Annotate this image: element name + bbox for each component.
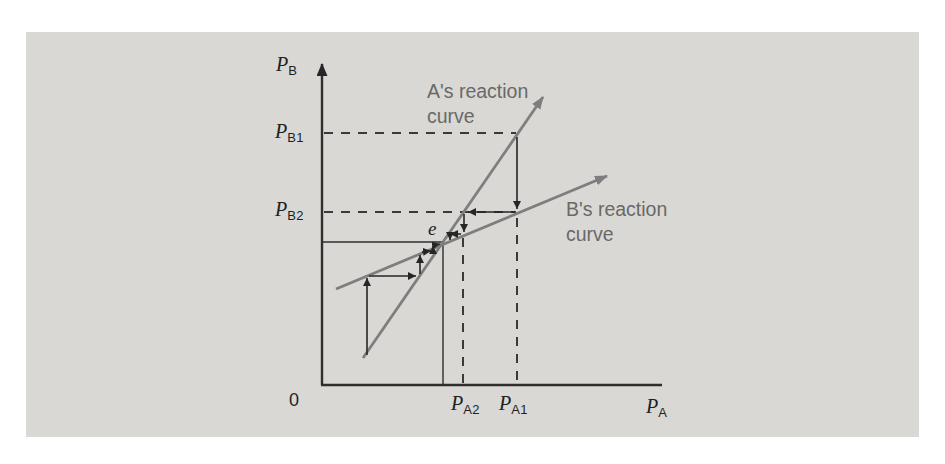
curve-b-label-line2: curve bbox=[566, 222, 667, 247]
curve-a-label-line2: curve bbox=[427, 104, 528, 129]
pb1-tick-label: PB1 bbox=[275, 120, 304, 143]
equilibrium-letter: e bbox=[428, 218, 436, 239]
pa2-tick-label: PA2 bbox=[451, 392, 480, 415]
pb1-subscript: B1 bbox=[287, 130, 304, 145]
curve-a-label-line1: A's reaction bbox=[427, 79, 528, 104]
adjustment-arrows-upper bbox=[450, 137, 517, 240]
y-axis-label: PB bbox=[276, 53, 297, 76]
adjustment-arrow bbox=[435, 244, 440, 245]
x-axis-label-subscript: A bbox=[658, 405, 667, 420]
curve-a-label: A's reaction curve bbox=[427, 79, 528, 129]
pb2-tick-label: PB2 bbox=[275, 198, 304, 221]
pa1-symbol: P bbox=[499, 392, 511, 414]
pa1-tick-label: PA1 bbox=[499, 392, 528, 415]
pa2-symbol: P bbox=[451, 392, 463, 414]
page: PB PB1 PB2 0 PA2 PA1 PA e A's reaction c… bbox=[0, 0, 945, 464]
equilibrium-point-label: e bbox=[428, 218, 436, 240]
y-axis-label-symbol: P bbox=[276, 53, 288, 75]
pa2-subscript: A2 bbox=[463, 402, 480, 417]
y-axis-label-subscript: B bbox=[288, 63, 297, 78]
curve-b-label-line1: B's reaction bbox=[566, 197, 667, 222]
a-reaction-curve bbox=[363, 97, 543, 358]
pb2-subscript: B2 bbox=[287, 208, 304, 223]
adjustment-arrow bbox=[422, 251, 431, 252]
equilibrium-coordinate-lines bbox=[323, 242, 443, 384]
origin-label: 0 bbox=[289, 389, 299, 411]
x-axis-label: PA bbox=[646, 395, 667, 418]
x-axis-label-symbol: P bbox=[646, 395, 658, 417]
pb2-symbol: P bbox=[275, 198, 287, 220]
origin-value: 0 bbox=[289, 390, 299, 410]
pa1-subscript: A1 bbox=[511, 402, 528, 417]
pb1-symbol: P bbox=[275, 120, 287, 142]
curve-b-label: B's reaction curve bbox=[566, 197, 667, 247]
